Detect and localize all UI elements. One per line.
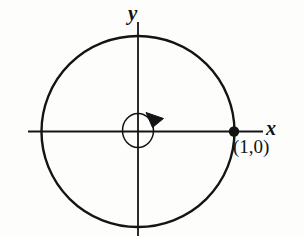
- figure-canvas: [0, 0, 304, 237]
- unit-circle-figure: y x (1,0): [0, 0, 304, 237]
- rotation-arrowhead-icon: [146, 113, 164, 128]
- y-axis-label: y: [128, 3, 137, 24]
- x-axis-label: x: [266, 118, 276, 138]
- point-coordinate-label: (1,0): [233, 137, 269, 156]
